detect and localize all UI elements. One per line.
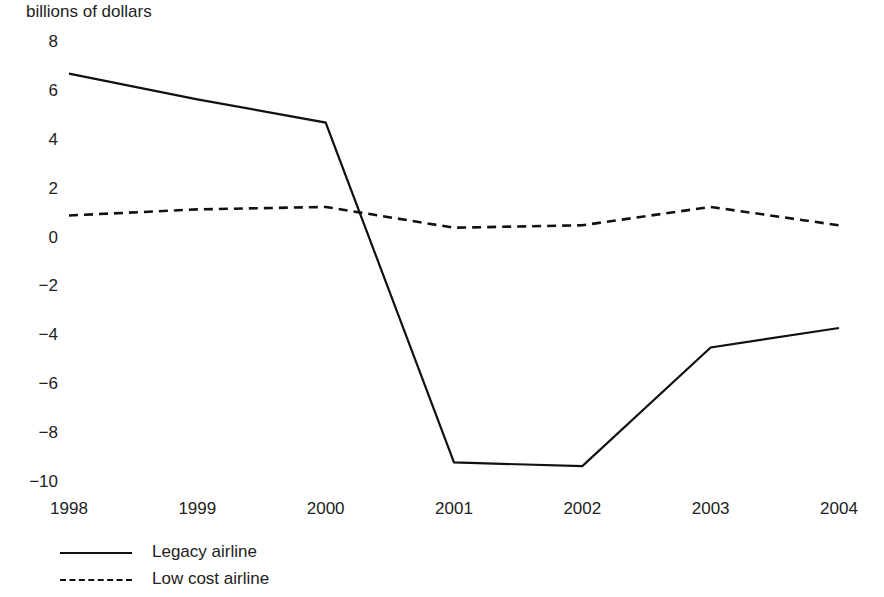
- legend-swatch-solid-line-icon: [60, 552, 132, 554]
- series-line-legacy-airline: [69, 74, 839, 466]
- legend-label-legacy-airline: Legacy airline: [152, 540, 257, 564]
- plot-area: [0, 0, 884, 597]
- chart-figure: billions of dollars 86420−2−4−6−8−10 199…: [0, 0, 884, 597]
- chart-legend: Legacy airline Low cost airline: [60, 540, 390, 594]
- legend-swatch-dashed-line-icon: [60, 579, 132, 581]
- legend-item-low-cost-airline: Low cost airline: [60, 567, 390, 594]
- legend-label-low-cost-airline: Low cost airline: [152, 567, 269, 591]
- series-line-low-cost-airline: [69, 207, 839, 228]
- legend-item-legacy-airline: Legacy airline: [60, 540, 390, 567]
